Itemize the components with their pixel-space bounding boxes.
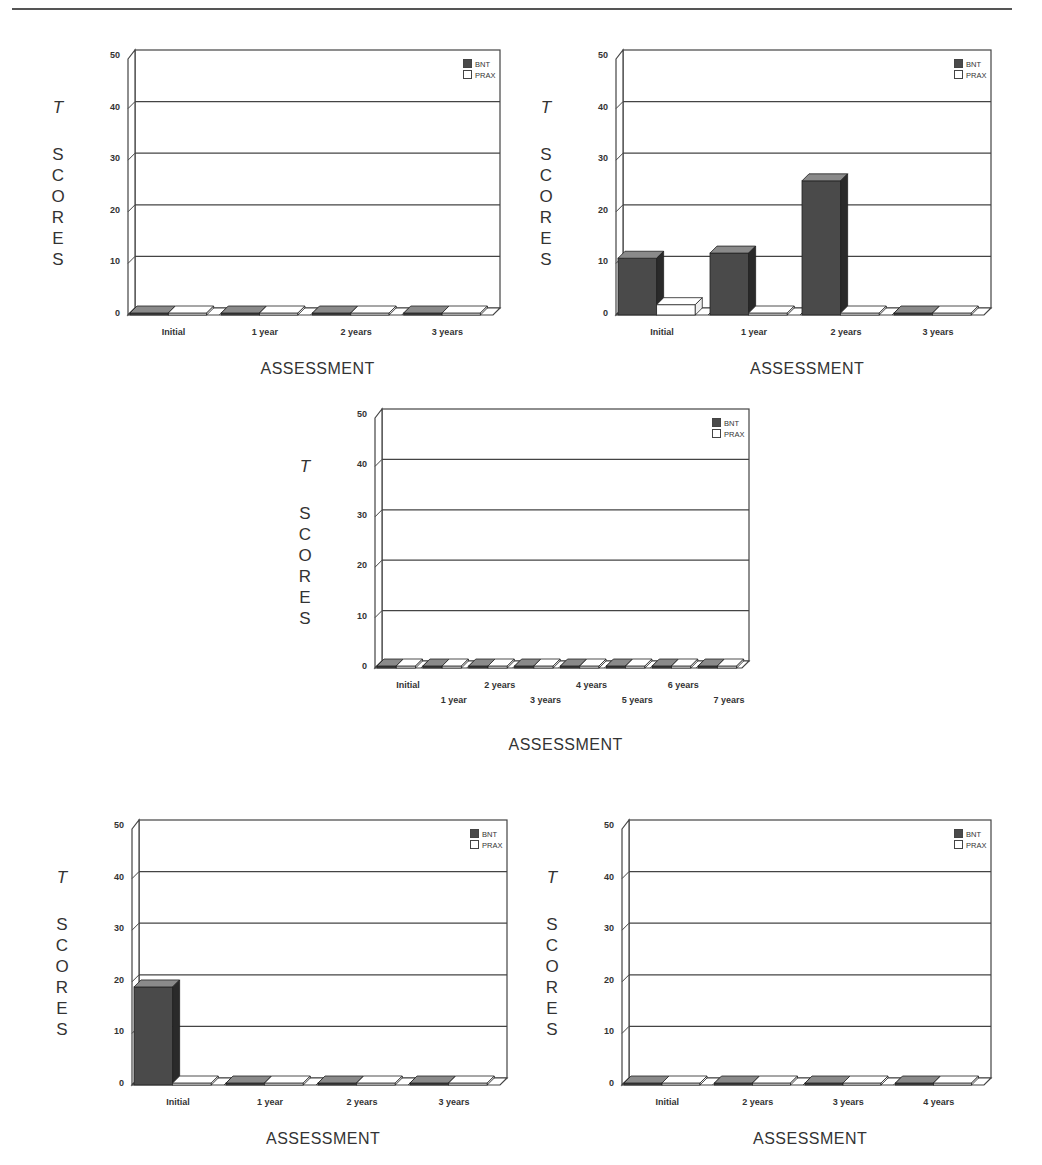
legend-swatch xyxy=(470,829,479,838)
legend-label: BNT xyxy=(482,830,497,839)
y-tick-label: 20 xyxy=(104,975,124,985)
y-axis-label-t: T xyxy=(542,867,562,888)
y-axis-label-letter: S xyxy=(48,249,68,270)
y-axis-label-letter: C xyxy=(48,165,68,186)
legend-swatch xyxy=(712,418,721,427)
y-axis-label-letter: S xyxy=(542,914,562,935)
legend-item-prax: PRAX xyxy=(954,70,986,81)
legend-item-bnt: BNT xyxy=(954,59,986,70)
legend-label: BNT xyxy=(724,419,739,428)
y-axis-label: TSCORES xyxy=(536,97,556,270)
y-tick-label: 50 xyxy=(594,820,614,830)
category-label: 3 years xyxy=(419,1097,489,1107)
category-label: 4 years xyxy=(904,1097,974,1107)
legend-swatch xyxy=(954,829,963,838)
y-tick-label: 0 xyxy=(347,661,367,671)
y-axis-label-t: T xyxy=(536,97,556,118)
legend-item-prax: PRAX xyxy=(712,429,744,440)
category-label: 5 years xyxy=(602,695,672,705)
x-axis-title: ASSESSMENT xyxy=(266,1130,380,1148)
y-tick-label: 50 xyxy=(100,50,120,60)
legend-label: BNT xyxy=(966,830,981,839)
y-axis-label-letter: O xyxy=(48,186,68,207)
y-tick-label: 0 xyxy=(100,308,120,318)
y-tick-label: 0 xyxy=(104,1078,124,1088)
chart-bottom-left: Initial1 year2 years3 years01020304050BN… xyxy=(40,822,510,1162)
legend-item-bnt: BNT xyxy=(463,59,495,70)
y-tick-label: 40 xyxy=(347,459,367,469)
y-tick-label: 40 xyxy=(594,872,614,882)
y-tick-label: 10 xyxy=(347,611,367,621)
legend-label: PRAX xyxy=(475,71,495,80)
legend-label: PRAX xyxy=(966,71,986,80)
category-label: Initial xyxy=(139,327,209,337)
y-tick-label: 40 xyxy=(100,102,120,112)
y-tick-label: 0 xyxy=(594,1078,614,1088)
y-axis-label: TSCORES xyxy=(48,97,68,270)
y-axis-label-t: T xyxy=(48,97,68,118)
legend-swatch xyxy=(954,59,963,68)
y-tick-label: 20 xyxy=(347,560,367,570)
y-tick-label: 30 xyxy=(100,153,120,163)
legend-label: PRAX xyxy=(724,430,744,439)
category-label: 7 years xyxy=(694,695,764,705)
legend-item-prax: PRAX xyxy=(463,70,495,81)
legend-item-bnt: BNT xyxy=(954,829,986,840)
y-axis-label-letter: R xyxy=(52,977,72,998)
category-label: 6 years xyxy=(648,680,718,690)
y-axis-label: TSCORES xyxy=(542,867,562,1040)
legend: BNTPRAX xyxy=(954,829,986,851)
legend-label: BNT xyxy=(475,60,490,69)
category-label: Initial xyxy=(632,1097,702,1107)
legend-swatch xyxy=(712,429,721,438)
legend-swatch xyxy=(954,840,963,849)
y-tick-label: 0 xyxy=(588,308,608,318)
category-label: Initial xyxy=(627,327,697,337)
category-label: 3 years xyxy=(412,327,482,337)
y-axis-label-letter: S xyxy=(52,1019,72,1040)
legend-item-prax: PRAX xyxy=(470,840,502,851)
y-tick-label: 50 xyxy=(104,820,124,830)
category-label: 1 year xyxy=(230,327,300,337)
y-axis-label-letter: O xyxy=(542,956,562,977)
category-label: 1 year xyxy=(235,1097,305,1107)
category-label: 1 year xyxy=(419,695,489,705)
category-label: Initial xyxy=(373,680,443,690)
x-axis-title: ASSESSMENT xyxy=(261,360,375,378)
y-axis-label-letter: S xyxy=(536,144,556,165)
y-tick-label: 20 xyxy=(100,205,120,215)
category-label: 2 years xyxy=(327,1097,397,1107)
legend-item-prax: PRAX xyxy=(954,840,986,851)
y-axis-label-letter: C xyxy=(536,165,556,186)
legend-swatch xyxy=(470,840,479,849)
y-axis-label-letter: S xyxy=(542,1019,562,1040)
y-tick-label: 40 xyxy=(588,102,608,112)
legend-label: BNT xyxy=(966,60,981,69)
category-label: 2 years xyxy=(465,680,535,690)
chart-middle: Initial1 year2 years3 years4 years5 year… xyxy=(280,405,760,765)
legend: BNTPRAX xyxy=(712,418,744,440)
y-tick-label: 10 xyxy=(104,1026,124,1036)
y-tick-label: 10 xyxy=(100,256,120,266)
category-label: 3 years xyxy=(511,695,581,705)
category-label: 4 years xyxy=(556,680,626,690)
y-axis-label-letter: E xyxy=(48,228,68,249)
y-axis-label-letter: R xyxy=(48,207,68,228)
legend: BNTPRAX xyxy=(463,59,495,81)
legend: BNTPRAX xyxy=(954,59,986,81)
x-axis-title: ASSESSMENT xyxy=(753,1130,867,1148)
y-axis-label-letter: E xyxy=(52,998,72,1019)
y-axis-label-letter: E xyxy=(542,998,562,1019)
y-axis-label-letter: S xyxy=(536,249,556,270)
y-axis-label-letter: S xyxy=(295,608,315,629)
y-axis-label-letter: E xyxy=(295,587,315,608)
y-tick-label: 20 xyxy=(594,975,614,985)
y-axis-label-t: T xyxy=(295,456,315,477)
y-axis-label-letter: C xyxy=(542,935,562,956)
y-tick-label: 30 xyxy=(347,510,367,520)
y-axis-label-letter: R xyxy=(542,977,562,998)
y-axis-label-letter: S xyxy=(295,503,315,524)
category-label: 2 years xyxy=(321,327,391,337)
y-tick-label: 30 xyxy=(594,923,614,933)
y-axis-label-letter: R xyxy=(295,566,315,587)
